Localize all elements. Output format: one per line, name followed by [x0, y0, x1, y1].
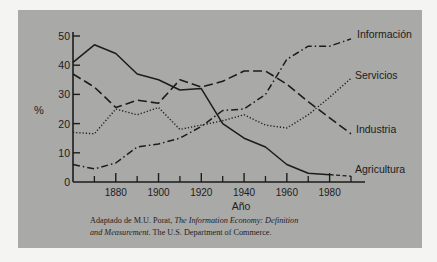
series-label: Industria [356, 123, 396, 135]
y-tick-label: 0 [64, 176, 70, 188]
x-tick-label: 1940 [233, 187, 256, 198]
x-tick-label: 1960 [276, 187, 299, 198]
y-tick-label: 50 [58, 30, 70, 42]
series-line-agricultura [73, 45, 330, 175]
series-labels: InformaciónServiciosIndustriaAgricultura [355, 28, 412, 175]
data-lines [73, 39, 351, 176]
x-tick-label: 1980 [318, 187, 341, 198]
series-line-información [73, 39, 351, 169]
x-tick-label: 1880 [105, 187, 128, 198]
source-caption: Adaptado de M.U. Porat, The Information … [90, 215, 390, 239]
caption-title-2: and Measurement [90, 228, 149, 237]
y-tick-label: 30 [58, 88, 70, 100]
series-line-industria [73, 71, 351, 134]
y-tick-label: 20 [58, 118, 70, 130]
series-label: Agricultura [355, 163, 405, 175]
series-label: Servicios [355, 69, 398, 81]
caption-prefix: Adaptado de M.U. Porat, [90, 216, 174, 225]
y-tick-label: 40 [58, 59, 70, 71]
caption-suffix: . The U.S. Department of Commerce. [149, 228, 272, 237]
x-tick-label: 1920 [190, 187, 213, 198]
series-label: Información [357, 28, 412, 40]
x-axis-label: Año [232, 200, 251, 212]
x-tick-label: 1900 [147, 187, 170, 198]
y-tick-label: 10 [58, 147, 70, 159]
caption-title-1: The Information Economy: Definition [174, 216, 298, 225]
axes: 01020304050188019001920194019601980 [58, 30, 365, 198]
series-projection-agricultura [330, 175, 351, 177]
y-axis-label: % [34, 104, 44, 116]
